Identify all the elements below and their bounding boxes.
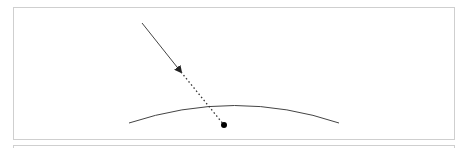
dotted-extension-line <box>181 72 224 125</box>
curved-surface-line <box>129 106 339 124</box>
ray-surface-diagram <box>0 0 474 148</box>
incoming-arrow <box>142 23 181 72</box>
target-point <box>221 122 227 128</box>
